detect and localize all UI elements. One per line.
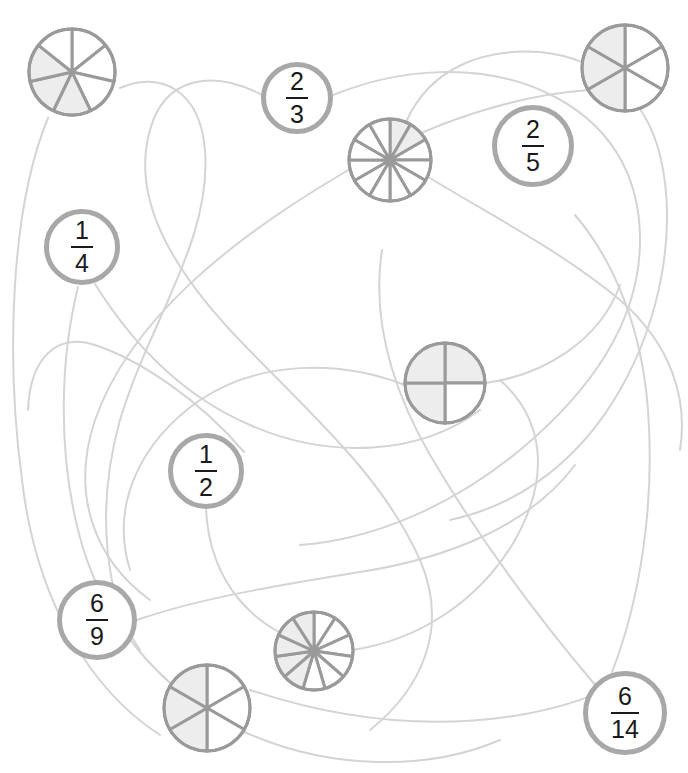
- fraction-bar: [86, 619, 108, 621]
- fraction-circle[interactable]: 614: [583, 671, 667, 755]
- fraction-denominator: 14: [611, 717, 639, 742]
- connector-curve: [575, 215, 650, 672]
- pie-fraction-diagram[interactable]: [26, 26, 118, 118]
- pie-fraction-diagram[interactable]: [346, 116, 434, 204]
- fraction-numerator: 2: [526, 117, 540, 142]
- fraction-numerator: 1: [199, 442, 213, 467]
- fraction-denominator: 2: [199, 475, 213, 500]
- fraction-bar: [611, 712, 639, 714]
- fraction-numerator: 1: [75, 218, 89, 243]
- connector-curve: [379, 250, 596, 686]
- fraction-denominator: 9: [90, 624, 104, 649]
- connector-curve: [485, 285, 620, 383]
- fraction-circle[interactable]: 12: [168, 433, 244, 509]
- fraction-denominator: 4: [75, 251, 89, 276]
- fraction-circle[interactable]: 25: [492, 105, 574, 187]
- fraction-bar: [195, 470, 217, 472]
- fraction-bar: [71, 246, 93, 248]
- fraction-circle[interactable]: 69: [57, 580, 137, 660]
- fraction-denominator: 3: [290, 102, 304, 127]
- pie-fraction-diagram[interactable]: [161, 662, 253, 754]
- fraction-circle[interactable]: 14: [44, 209, 120, 285]
- pie-fraction-diagram[interactable]: [402, 340, 488, 426]
- fraction-bar: [286, 97, 308, 99]
- fraction-bar: [522, 145, 544, 147]
- fraction-denominator: 5: [526, 150, 540, 175]
- fraction-circle[interactable]: 23: [261, 62, 333, 134]
- puzzle-canvas: 2325141269614: [0, 0, 688, 773]
- pie-fraction-diagram[interactable]: [272, 609, 356, 693]
- fraction-numerator: 6: [618, 684, 632, 709]
- fraction-numerator: 2: [290, 69, 304, 94]
- fraction-numerator: 6: [90, 591, 104, 616]
- pie-fraction-diagram[interactable]: [579, 22, 671, 114]
